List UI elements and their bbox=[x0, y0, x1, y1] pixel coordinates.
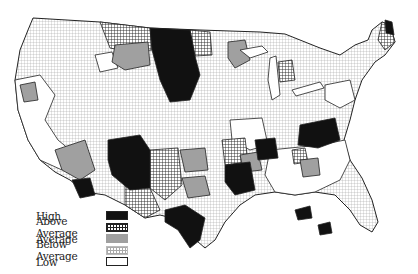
legend-swatch-low bbox=[106, 257, 128, 266]
legend-swatch-above-average bbox=[106, 223, 128, 232]
legend-item-below-average: Below Average bbox=[36, 245, 128, 257]
legend-item-above-average: Above Average bbox=[36, 222, 128, 234]
legend-swatch-below-average bbox=[106, 246, 128, 255]
choropleth-map-figure: High Above Average Average Below Average… bbox=[0, 0, 418, 274]
legend: High Above Average Average Below Average… bbox=[36, 210, 128, 268]
legend-swatch-high bbox=[106, 211, 128, 220]
legend-swatch-average bbox=[106, 234, 128, 243]
legend-label: Low bbox=[36, 256, 106, 268]
legend-item-low: Low bbox=[36, 256, 128, 268]
